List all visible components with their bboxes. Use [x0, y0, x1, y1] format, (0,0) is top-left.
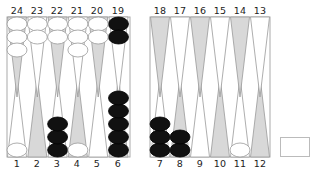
board-graphic — [0, 0, 317, 178]
black-checker-point-7[interactable] — [150, 130, 170, 144]
point-label-19: 19 — [108, 5, 128, 16]
point-label-24: 24 — [7, 5, 27, 16]
point-label-9: 9 — [190, 158, 210, 169]
black-checker-point-3[interactable] — [48, 143, 68, 157]
point-16[interactable] — [191, 17, 210, 97]
white-checker-point-4[interactable] — [68, 143, 88, 157]
point-label-12: 12 — [250, 158, 270, 169]
backgammon-board: 24 23 22 21 20 19 18 17 16 15 14 13 1 2 … — [0, 0, 317, 178]
black-checker-point-7[interactable] — [150, 117, 170, 131]
black-checker-point-8[interactable] — [170, 143, 190, 157]
white-checker-point-21[interactable] — [68, 17, 88, 31]
white-checker-point-24[interactable] — [7, 17, 27, 31]
point-label-2: 2 — [27, 158, 47, 169]
black-checker-point-6[interactable] — [109, 91, 129, 105]
white-checker-point-21[interactable] — [68, 30, 88, 44]
white-checker-point-24[interactable] — [7, 43, 27, 57]
point-label-18: 18 — [150, 5, 170, 16]
white-checker-point-22[interactable] — [48, 17, 68, 31]
point-label-20: 20 — [87, 5, 107, 16]
point-14[interactable] — [231, 17, 250, 97]
point-label-15: 15 — [210, 5, 230, 16]
black-checker-point-19[interactable] — [109, 30, 129, 44]
point-15[interactable] — [211, 17, 230, 97]
point-label-5: 5 — [87, 158, 107, 169]
point-label-16: 16 — [190, 5, 210, 16]
white-checker-point-22[interactable] — [48, 30, 68, 44]
point-label-10: 10 — [210, 158, 230, 169]
point-label-4: 4 — [67, 158, 87, 169]
black-checker-point-6[interactable] — [109, 117, 129, 131]
point-label-6: 6 — [108, 158, 128, 169]
white-checker-point-20[interactable] — [88, 30, 108, 44]
black-checker-point-8[interactable] — [170, 130, 190, 144]
black-checker-point-6[interactable] — [109, 104, 129, 118]
white-checker-point-24[interactable] — [7, 30, 27, 44]
point-label-23: 23 — [27, 5, 47, 16]
black-checker-point-7[interactable] — [150, 143, 170, 157]
white-checker-point-20[interactable] — [88, 17, 108, 31]
point-label-13: 13 — [250, 5, 270, 16]
white-checker-point-23[interactable] — [27, 17, 47, 31]
point-label-17: 17 — [170, 5, 190, 16]
doubling-cube-box[interactable] — [280, 137, 310, 157]
black-checker-point-3[interactable] — [48, 130, 68, 144]
point-label-8: 8 — [170, 158, 190, 169]
white-checker-point-21[interactable] — [68, 43, 88, 57]
point-label-7: 7 — [150, 158, 170, 169]
black-checker-point-19[interactable] — [109, 17, 129, 31]
black-checker-point-6[interactable] — [109, 143, 129, 157]
point-17[interactable] — [171, 17, 190, 97]
point-label-22: 22 — [47, 5, 67, 16]
point-label-1: 1 — [7, 158, 27, 169]
point-13[interactable] — [251, 17, 270, 97]
point-label-21: 21 — [67, 5, 87, 16]
black-checker-point-3[interactable] — [48, 117, 68, 131]
point-18[interactable] — [151, 17, 170, 97]
white-checker-point-11[interactable] — [230, 143, 250, 157]
point-label-14: 14 — [230, 5, 250, 16]
white-checker-point-23[interactable] — [27, 30, 47, 44]
point-label-11: 11 — [230, 158, 250, 169]
white-checker-point-1[interactable] — [7, 143, 27, 157]
black-checker-point-6[interactable] — [109, 130, 129, 144]
point-label-3: 3 — [47, 158, 67, 169]
